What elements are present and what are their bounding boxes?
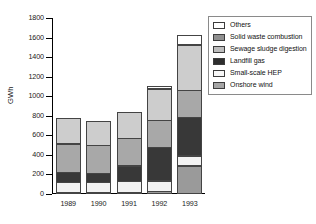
bar-segment <box>177 90 202 117</box>
bar-segment <box>117 138 142 166</box>
bar-segment <box>147 147 172 181</box>
legend-swatch <box>213 58 225 65</box>
bar-segment <box>147 191 172 194</box>
plot-area: 020040060080010001200140016001800 <box>52 18 204 194</box>
bar-segment <box>117 166 142 183</box>
bar-segment <box>147 120 172 147</box>
y-axis-tick-label: 600 <box>32 132 44 139</box>
y-axis-tick-label: 1600 <box>28 34 44 41</box>
y-axis-title: GWh <box>6 86 15 104</box>
bar-1990 <box>86 121 111 194</box>
bar-segment <box>56 192 81 194</box>
legend-item: Solid waste combustion <box>213 33 308 42</box>
legend-swatch <box>213 46 225 53</box>
y-axis-tick-label: 1000 <box>28 93 44 100</box>
y-axis-tick-label: 200 <box>32 171 44 178</box>
bar-segment <box>117 181 142 192</box>
legend-label: Landfill gas <box>230 57 265 66</box>
legend-item: Onshore wind <box>213 81 308 90</box>
y-axis-tick <box>46 77 52 78</box>
bar-segment <box>117 192 142 194</box>
bar-segment <box>147 181 172 192</box>
bar-segment <box>56 144 81 173</box>
bar-segment <box>117 112 142 139</box>
bar-segment <box>177 117 202 156</box>
legend-label: Sewage sludge digestion <box>230 45 307 54</box>
bar-1993 <box>177 35 202 194</box>
bar-segment <box>86 145 111 173</box>
legend-label: Solid waste combustion <box>230 33 302 42</box>
legend-label: Onshore wind <box>230 81 273 90</box>
bar-segment <box>177 166 202 194</box>
legend-swatch <box>213 82 225 89</box>
bar-1991 <box>117 112 142 194</box>
y-axis-tick <box>46 135 52 136</box>
legend-item: Others <box>213 21 308 30</box>
y-axis-tick <box>46 18 52 19</box>
bar-1989 <box>56 118 81 194</box>
y-axis-tick <box>46 116 52 117</box>
y-axis-tick-label: 800 <box>32 112 44 119</box>
legend-item: Small-scale HEP <box>213 69 308 78</box>
bar-segment <box>86 192 111 194</box>
legend-swatch <box>213 70 225 77</box>
y-axis-tick <box>46 96 52 97</box>
chart-figure: GWh 020040060080010001200140016001800 19… <box>0 0 316 224</box>
legend-label: Small-scale HEP <box>230 69 282 78</box>
y-axis-tick <box>46 57 52 58</box>
y-axis-tick <box>46 155 52 156</box>
y-axis-tick-label: 400 <box>32 151 44 158</box>
bar-segment <box>56 118 81 144</box>
legend-item: Landfill gas <box>213 57 308 66</box>
y-axis-tick-label: 0 <box>40 190 44 197</box>
bar-1992 <box>147 86 172 194</box>
y-axis-tick <box>46 174 52 175</box>
bar-segment <box>177 45 202 91</box>
y-axis-tick <box>46 194 52 195</box>
legend-label: Others <box>230 21 251 30</box>
y-axis-tick <box>46 38 52 39</box>
y-axis-tick-label: 1400 <box>28 54 44 61</box>
legend-swatch <box>213 22 225 29</box>
legend-item: Sewage sludge digestion <box>213 45 308 54</box>
legend-swatch <box>213 34 225 41</box>
x-axis-tick-label: 1993 <box>170 199 210 208</box>
bar-segment <box>147 89 172 121</box>
y-axis-tick-label: 1200 <box>28 73 44 80</box>
bar-segment <box>86 121 111 145</box>
chart-legend: OthersSolid waste combustionSewage sludg… <box>208 16 312 95</box>
y-axis-tick-label: 1800 <box>28 14 44 21</box>
